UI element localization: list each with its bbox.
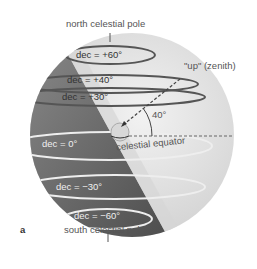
north-pole-label: north celestial pole (66, 19, 145, 29)
dec-label-plus60: dec = +60° (76, 50, 122, 60)
zenith-label: "up" (zenith) (184, 61, 236, 71)
dec-label-plus30: dec = +30° (62, 92, 108, 102)
dec-label-0: dec = 0° (42, 139, 77, 149)
south-pole-label: south celestial pole (64, 225, 145, 235)
dec-label-plus40: dec = +40° (67, 75, 113, 85)
dec-label-minus60: dec = −60° (74, 211, 120, 221)
angle-label: 40° (152, 110, 166, 120)
dec-label-minus30: dec = −30° (56, 182, 102, 192)
panel-label: a (20, 225, 25, 235)
